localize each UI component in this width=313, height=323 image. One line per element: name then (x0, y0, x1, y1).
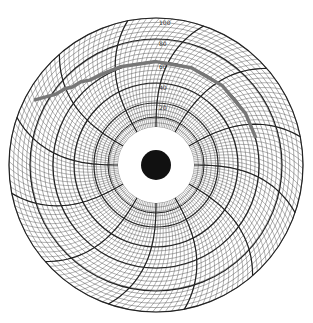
svg-text:100: 100 (159, 19, 171, 26)
circular-chart: 20406080100 (0, 0, 313, 323)
svg-text:80: 80 (159, 40, 167, 47)
center-hub (141, 150, 171, 180)
pen-trace (34, 62, 256, 139)
svg-text:20: 20 (159, 104, 167, 111)
svg-text:40: 40 (159, 84, 167, 91)
